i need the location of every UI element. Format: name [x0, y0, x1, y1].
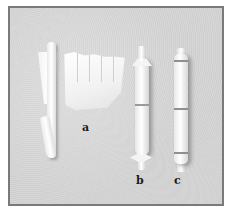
photo-frame: a b c — [8, 6, 224, 206]
object-a-fringed-paper — [63, 52, 126, 110]
object-c-band-top — [174, 60, 188, 62]
object-b-band — [135, 104, 149, 106]
object-c-band-bottom — [174, 152, 188, 154]
label-b: b — [136, 174, 144, 187]
label-a: a — [82, 121, 89, 134]
object-b-roll — [135, 58, 149, 156]
label-c: c — [174, 174, 181, 187]
object-c-band-middle — [174, 108, 188, 110]
